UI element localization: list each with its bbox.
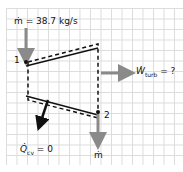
work-symbol: Ẇ: [136, 66, 145, 76]
turbine-body: [26, 48, 98, 115]
state1-label: 1: [14, 55, 20, 65]
work-value: = ?: [157, 66, 175, 76]
control-volume-boundary: [28, 44, 98, 118]
heat-subscript: cv: [27, 149, 34, 156]
state1-point: [24, 60, 28, 64]
state2-label: 2: [104, 110, 110, 120]
outlet-mass-flow-label: ṁ: [94, 150, 103, 160]
inlet-mass-flow-label: ṁ = 38.7 kg/s: [14, 16, 78, 26]
work-subscript: turb: [145, 71, 157, 78]
work-label: Ẇturb = ?: [136, 66, 175, 78]
state2-point: [96, 110, 100, 114]
heat-value: = 0: [34, 144, 53, 154]
heat-label: Q̇cv = 0: [20, 144, 53, 156]
